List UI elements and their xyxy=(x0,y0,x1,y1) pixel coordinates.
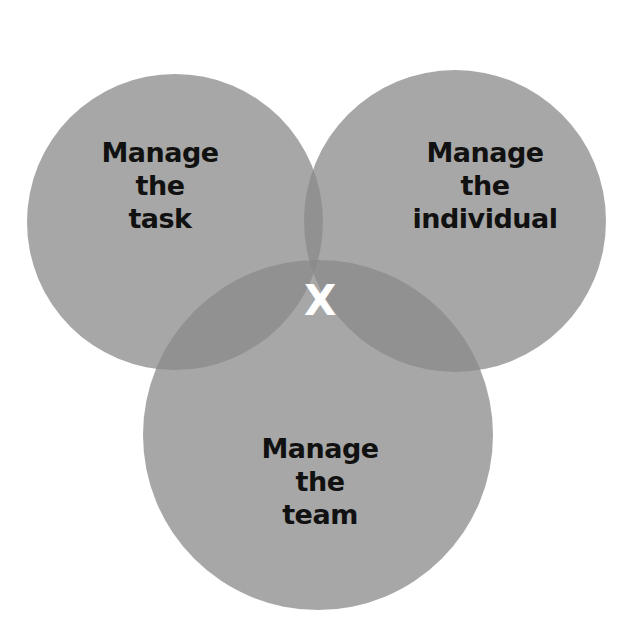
label-line: the xyxy=(80,169,240,202)
label-team: Manage the team xyxy=(240,432,400,531)
label-task: Manage the task xyxy=(80,136,240,235)
label-individual: Manage the individual xyxy=(400,136,570,235)
label-line: task xyxy=(80,202,240,235)
label-line: individual xyxy=(400,202,570,235)
label-line: Manage xyxy=(400,136,570,169)
label-line: Manage xyxy=(240,432,400,465)
label-line: Manage xyxy=(80,136,240,169)
label-line: the xyxy=(400,169,570,202)
label-line: team xyxy=(240,498,400,531)
center-label: X xyxy=(304,276,336,325)
label-line: the xyxy=(240,465,400,498)
